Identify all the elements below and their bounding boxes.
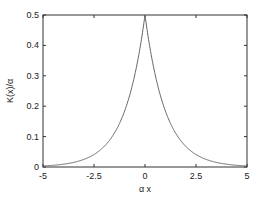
x-axis: -5-2.502.55: [39, 15, 250, 181]
plot-area-border: [43, 15, 247, 167]
data-line: [43, 15, 247, 166]
y-tick-label: 0.3: [26, 71, 39, 81]
y-axis: 00.10.20.30.40.5: [26, 10, 247, 172]
chart: 00.10.20.30.40.5 -5-2.502.55 K(x)/α α x: [0, 0, 262, 200]
x-tick-label: 2.5: [190, 171, 203, 181]
x-axis-label: α x: [139, 184, 152, 194]
x-tick-label: -5: [39, 171, 47, 181]
y-tick-label: 0.5: [26, 10, 39, 20]
x-tick-label: 5: [244, 171, 249, 181]
y-tick-label: 0.1: [26, 132, 39, 142]
y-tick-label: 0.4: [26, 40, 39, 50]
x-tick-label: 0: [142, 171, 147, 181]
y-tick-label: 0.2: [26, 101, 39, 111]
x-tick-label: -2.5: [86, 171, 102, 181]
y-axis-label: K(x)/α: [5, 79, 15, 103]
axes-box: [43, 15, 247, 167]
